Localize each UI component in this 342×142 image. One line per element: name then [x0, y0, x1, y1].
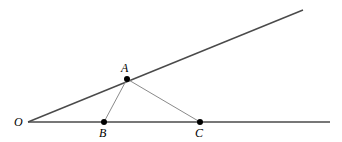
point-a-dot [124, 76, 130, 82]
point-label-o: O [14, 116, 23, 128]
point-label-a: A [121, 62, 128, 74]
segment-ac-line [127, 79, 200, 122]
geometry-canvas [0, 0, 342, 142]
point-c-dot [197, 119, 203, 125]
geometry-figure: O A B C [0, 0, 342, 142]
point-label-b: B [99, 127, 106, 139]
point-b-dot [101, 119, 107, 125]
ray-oa-line [28, 10, 303, 122]
point-label-c: C [195, 127, 203, 139]
segment-ab-line [104, 79, 127, 122]
